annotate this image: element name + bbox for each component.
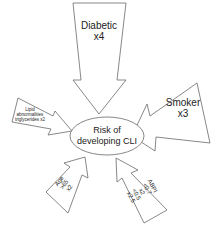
smoker-arrow-shape [132,83,210,151]
smoker-arrow: Smoker x3 [132,83,210,151]
center-node: Risk of developing CLI [70,117,144,155]
diabetic-multiplier: x4 [94,31,105,42]
abpi-arrow: ABPI <0.7 x2 <0.5 x2.5 [116,158,167,223]
lipid-arrow: Lipid abnormalities triglycerides x2 [12,98,72,135]
lipid-label-3: triglycerides x2 [15,117,46,122]
center-label-line2: developing CLI [77,136,137,146]
diabetic-arrow: Diabetic x4 [73,3,126,114]
diabetic-label: Diabetic [81,20,117,31]
age-arrow: Age >65 x2 [46,157,88,213]
center-label-line1: Risk of [93,125,121,135]
cli-risk-diagram: Diabetic x4 Smoker x3 Lipid abnormalitie… [0,0,217,229]
smoker-label: Smoker [166,97,201,108]
smoker-multiplier: x3 [178,108,189,119]
